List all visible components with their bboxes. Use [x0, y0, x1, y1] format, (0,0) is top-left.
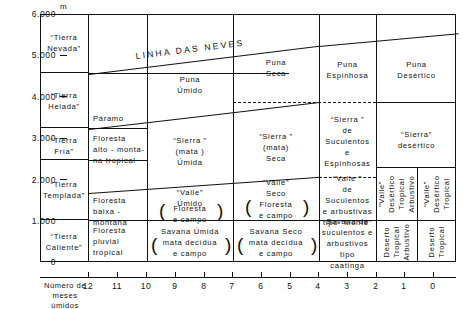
x-tick-1: 1: [394, 281, 414, 291]
x-tickmark-9: [175, 272, 176, 278]
paren-right-savana-seco: ): [311, 235, 317, 254]
paren-left-savana-umida: (: [151, 235, 157, 254]
x-tick-4: 4: [308, 281, 328, 291]
y-axis-unit: m: [60, 2, 67, 11]
cell-deserto-tropical-label: Deserto Tropical: [427, 226, 447, 258]
x-tickmark-4: [318, 272, 319, 278]
cell-paramo: Páramo: [89, 113, 151, 129]
x-tick-8: 8: [194, 281, 214, 291]
band-line-puna-sierra-right: [376, 102, 455, 103]
cell-valle-desertico-arbustivo-label: “Valle” Desértico Tropical Arbustivo: [377, 173, 417, 214]
cell-valle-desertico-arbustivo: “Valle” Desértico Tropical Arbustivo: [376, 167, 417, 220]
x-tick-6: 6: [251, 281, 271, 291]
cell-puna-espinhosa: Puna Espinhosa: [319, 55, 376, 85]
paren-left-valle-seco: (: [245, 197, 251, 216]
plot-area: LINHA DAS NEVES Páramo Floresta alto - m…: [88, 14, 456, 262]
tierra-band-frame: [40, 14, 88, 262]
x-tickmark-1: [404, 272, 405, 278]
paren-right-valle-umido: ): [217, 201, 223, 220]
x-tick-7: 7: [222, 281, 242, 291]
paren-left-savana-seco: (: [237, 235, 243, 254]
x-tick-10: 10: [136, 281, 156, 291]
cell-sierra-desertico: “Sierra” desértico: [376, 125, 457, 155]
band-sep-fria-templada: [40, 159, 89, 160]
cell-sierra-mata-seca: “Sierra ” (mata) Seca: [233, 127, 319, 167]
cell-deserto-tropical: Deserto Tropical: [417, 220, 457, 263]
x-tickmark-10: [146, 272, 147, 278]
cell-savana-seco-sub: mata decídua e campo: [233, 237, 319, 259]
x-tickmark-2: [376, 272, 377, 278]
x-tick-2: 2: [366, 281, 386, 291]
cell-floresta-alto-montana: Floresta alto - monta- na tropical: [89, 133, 151, 169]
x-tickmark-8: [204, 272, 205, 278]
x-tick-12: 12: [78, 281, 98, 291]
x-tick-3: 3: [337, 281, 357, 291]
x-tick-5: 5: [280, 281, 300, 291]
climate-altitude-diagram: m 6.000 5.000 4.000 3.000 2.000 1.000 0 …: [0, 0, 463, 309]
cell-sierra-mata-umida: “Sierra ” (mata ) Úmida: [147, 131, 233, 171]
x-tickmark-7: [232, 272, 233, 278]
x-tickmark-12: [88, 272, 89, 278]
cell-valle-desertico-tropical: “Valle” Desértico Tropical: [417, 167, 457, 220]
cell-sierra-suculentos: “Sierra ” de Suculentos e Espinhosas: [319, 109, 376, 173]
x-tickmark-11: [117, 272, 118, 278]
cell-savana-suculentos: Savana de suculentos e arbustivos tipo c…: [319, 223, 376, 263]
x-tick-0: 0: [423, 281, 443, 291]
paren-left-valle-umido: (: [159, 201, 165, 220]
x-tickmark-3: [347, 272, 348, 278]
x-tick-11: 11: [107, 281, 127, 291]
cell-puna-umido: Puna Úmido: [147, 70, 233, 100]
cell-floresta-pluvial: Floresta pluvial tropical: [89, 225, 151, 261]
x-tickmark-0: [433, 272, 434, 278]
paren-right-valle-seco: ): [303, 197, 309, 216]
x-tickmark-6: [261, 272, 262, 278]
band-sep-templada-caliente: [40, 219, 89, 220]
band-sep-helada-fria: [40, 127, 89, 128]
band-sep-nevada-helada: [40, 72, 89, 73]
snow-line-seg-2: [319, 33, 459, 47]
cell-savana-umida-sub: mata decídua e campo: [147, 237, 233, 259]
cell-puna-desertico: Puna Desértico: [376, 55, 457, 85]
x-tickmark-5: [290, 272, 291, 278]
cell-deserto-tropical-arbustivo-label: Deserto Tropical Arbustivo: [381, 223, 411, 260]
x-tick-9: 9: [165, 281, 185, 291]
paren-right-savana-umida: ): [225, 235, 231, 254]
cell-puna-seca: Puna Seca: [233, 53, 319, 83]
cell-valle-desertico-tropical-label: “Valle” Desértico Tropical: [422, 174, 452, 214]
cell-deserto-tropical-arbustivo: Deserto Tropical Arbustivo: [376, 220, 417, 263]
x-axis-line: [40, 277, 456, 278]
